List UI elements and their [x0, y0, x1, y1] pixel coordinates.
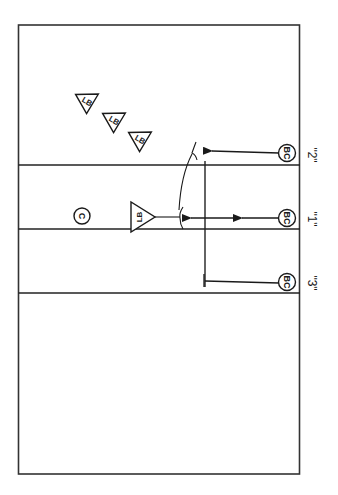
curved-block — [154, 142, 197, 229]
route-lane-2 — [212, 151, 279, 153]
linebacker-3: LB — [128, 122, 157, 151]
ball-carrier-lane-3: BC — [279, 274, 296, 291]
linebacker-2: LB — [102, 103, 131, 132]
linebacker-1: LB — [75, 84, 104, 113]
center-label: C — [77, 213, 87, 220]
center-player: C — [74, 208, 90, 224]
lane-label-3: "3" — [305, 275, 319, 290]
football-play-diagram: BC BC BC "2" "1" "3" LB LB LB LB C — [0, 0, 338, 495]
lb-label: LB — [135, 211, 144, 222]
linebacker-front: LB — [131, 202, 155, 232]
lane-lines — [19, 165, 301, 293]
lane-label-2: "2" — [305, 147, 319, 162]
route-lane-3 — [204, 274, 279, 287]
ball-carrier-lane-1: BC — [279, 210, 296, 227]
ball-carrier-lane-2: BC — [279, 145, 296, 162]
bc-label: BC — [282, 276, 292, 289]
field-border — [19, 25, 300, 474]
lane-label-1: "1" — [305, 211, 319, 226]
bc-label: BC — [282, 212, 292, 225]
bc-label: BC — [282, 147, 292, 160]
